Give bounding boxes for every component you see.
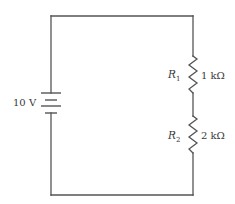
battery-symbol	[41, 93, 61, 113]
resistor-r2-name: R2	[167, 129, 180, 144]
battery-voltage-label: 10 V	[13, 97, 37, 108]
resistor-r1-symbol	[189, 56, 197, 93]
resistor-r1-value: 1 kΩ	[201, 70, 225, 81]
resistor-r2-symbol	[189, 116, 197, 153]
resistor-r1-name: R1	[167, 68, 180, 83]
resistor-r2-value: 2 kΩ	[201, 130, 225, 141]
circuit-diagram: 10 V R1 1 kΩ R2 2 kΩ	[0, 0, 235, 204]
circuit-wires	[51, 16, 193, 195]
